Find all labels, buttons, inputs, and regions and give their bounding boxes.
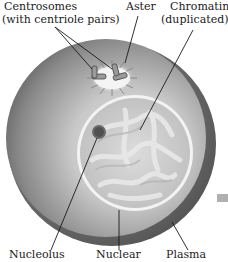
label-chromatin-detail: (duplicated) [161, 14, 228, 26]
cell-diagram [0, 0, 228, 262]
label-nuclear: Nuclear [96, 249, 141, 261]
label-aster: Aster [126, 1, 156, 13]
marker-square [217, 194, 228, 202]
label-centrosomes-detail: (with centriole pairs) [2, 14, 120, 26]
label-plasma: Plasma [166, 249, 206, 261]
label-chromatin: Chromatin [170, 1, 228, 13]
nucleus [77, 95, 193, 211]
label-nucleolus: Nucleolus [9, 249, 65, 261]
label-centrosomes: Centrosomes [4, 1, 77, 13]
nucleolus [92, 125, 106, 139]
